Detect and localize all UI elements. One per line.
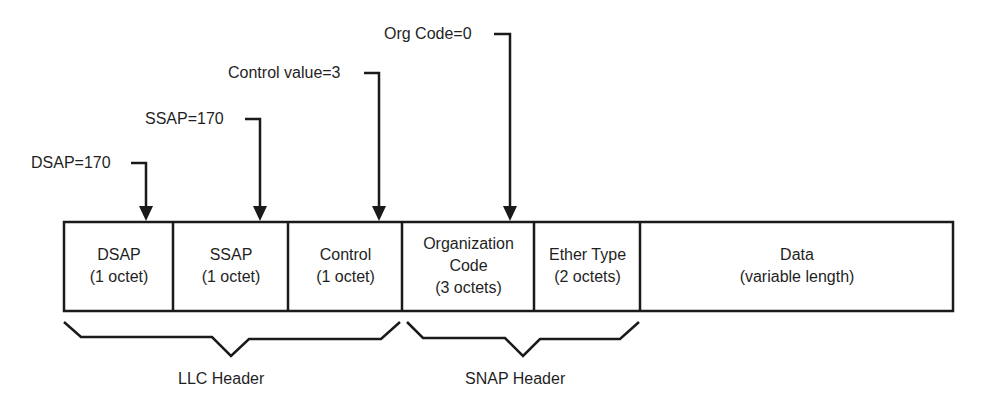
llc-header-label: LLC Header: [178, 370, 264, 388]
field-name: Data: [780, 244, 814, 266]
field-size: (1 octet): [316, 266, 375, 288]
field-name: Organization: [423, 233, 514, 255]
control-value-label: Control value=3: [228, 64, 341, 82]
dsap-pointer-line: [131, 163, 146, 210]
diagram-lines: [0, 0, 985, 411]
field-name: DSAP: [97, 244, 141, 266]
field-size: (2 octets): [554, 266, 621, 288]
field-size: (1 octet): [90, 266, 149, 288]
dsap-value-label: DSAP=170: [31, 154, 111, 172]
field-organization-code: Organization Code (3 octets): [403, 223, 534, 309]
orgcode-pointer-line: [494, 34, 510, 210]
control-pointer-line: [364, 73, 379, 210]
arrow-head-icon: [503, 206, 517, 221]
field-size: (3 octets): [435, 277, 502, 299]
arrow-head-icon: [253, 206, 267, 221]
arrow-head-icon: [139, 206, 153, 221]
arrow-head-icon: [372, 206, 386, 221]
field-size: (1 octet): [202, 266, 261, 288]
field-name: Control: [320, 244, 372, 266]
field-ether-type: Ether Type (2 octets): [535, 223, 640, 309]
field-name: Ether Type: [549, 244, 626, 266]
field-size: (variable length): [740, 266, 855, 288]
field-name: SSAP: [210, 244, 253, 266]
snap-bracket: [407, 322, 639, 356]
ssap-pointer-line: [245, 119, 260, 210]
llc-bracket: [64, 322, 400, 356]
field-dsap: DSAP (1 octet): [65, 223, 173, 309]
field-data: Data (variable length): [641, 223, 953, 309]
snap-header-label: SNAP Header: [465, 370, 565, 388]
field-name-line2: Code: [449, 255, 487, 277]
field-control: Control (1 octet): [289, 223, 402, 309]
ssap-value-label: SSAP=170: [145, 110, 224, 128]
orgcode-value-label: Org Code=0: [384, 25, 472, 43]
field-ssap: SSAP (1 octet): [174, 223, 288, 309]
snap-frame-diagram: DSAP=170 SSAP=170 Control value=3 Org Co…: [0, 0, 985, 411]
